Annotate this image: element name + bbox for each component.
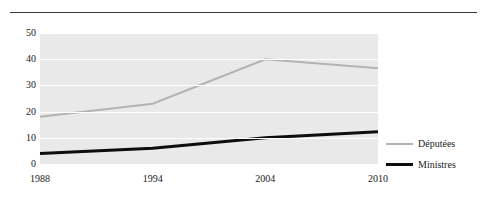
series-line (40, 132, 378, 154)
y-axis-tick-label: 30 (2, 80, 36, 90)
series-line (40, 59, 378, 117)
y-axis-tick-label: 10 (2, 133, 36, 143)
gridline (40, 59, 378, 60)
x-axis-tick-label: 1994 (123, 174, 183, 184)
x-axis: 1988199420042010 (0, 174, 487, 188)
x-axis-tick-label: 2010 (348, 174, 408, 184)
series-lines (40, 33, 378, 164)
x-axis-tick-label: 1988 (10, 174, 70, 184)
y-axis-tick-label: 50 (2, 28, 36, 38)
legend-swatch-ministres (386, 163, 413, 166)
y-axis-tick-label: 40 (2, 54, 36, 64)
top-horizontal-rule (10, 12, 477, 13)
figure-container: 01020304050 1988199420042010 Députées Mi… (0, 0, 487, 218)
x-axis-tick-label: 2004 (235, 174, 295, 184)
plot-area (40, 33, 378, 164)
gridline (40, 85, 378, 86)
y-axis-tick-label: 20 (2, 107, 36, 117)
chart-legend: Députées Ministres (386, 133, 487, 175)
gridline (40, 138, 378, 139)
legend-item-ministres: Ministres (386, 154, 487, 175)
legend-label-deputees: Députées (418, 138, 455, 149)
y-axis-tick-label: 0 (2, 159, 36, 169)
gridline (40, 112, 378, 113)
legend-swatch-deputees (386, 143, 413, 145)
legend-item-deputees: Députées (386, 133, 487, 154)
gridline (40, 33, 378, 34)
legend-label-ministres: Ministres (418, 159, 456, 170)
